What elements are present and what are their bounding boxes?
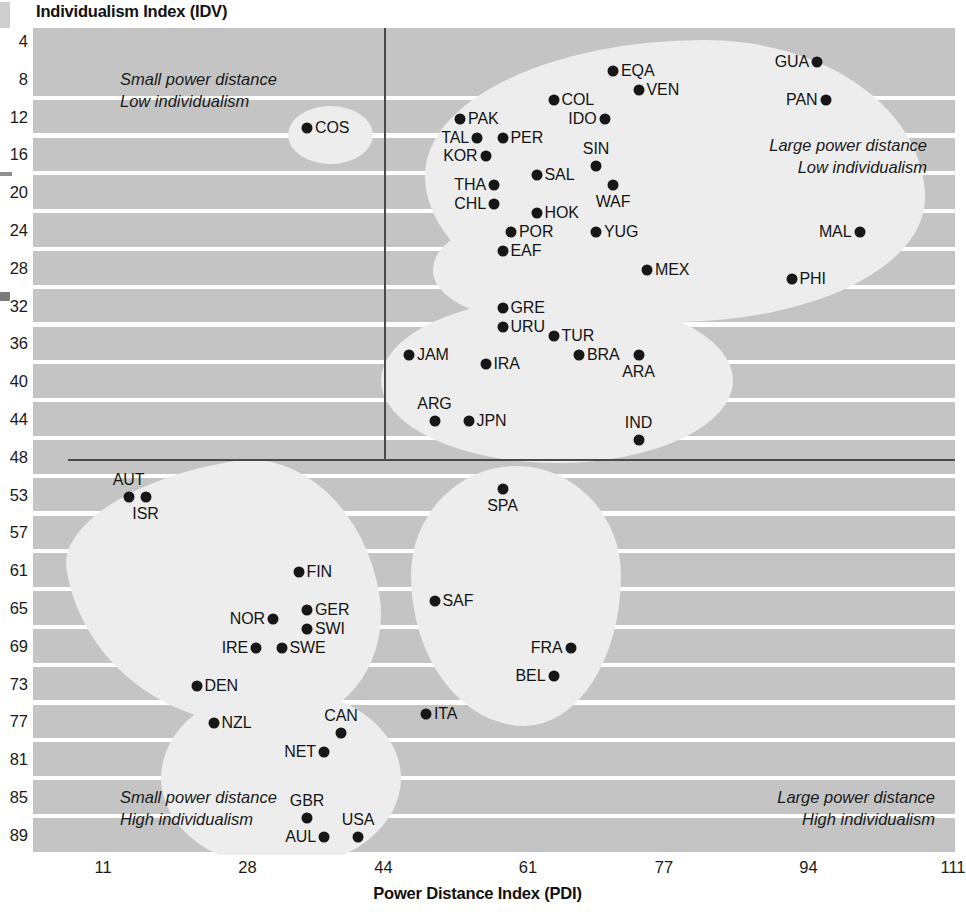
data-point (531, 208, 542, 219)
x-axis-title: Power Distance Index (PDI) (0, 884, 955, 903)
data-point (251, 642, 262, 653)
data-point-label: FIN (307, 563, 332, 581)
data-point (472, 132, 483, 143)
data-point (404, 349, 415, 360)
data-point-label: PAN (786, 91, 817, 109)
data-point-label: FRA (531, 639, 563, 657)
y-axis-tick-label: 28 (0, 259, 28, 278)
y-axis-tick-label: 44 (0, 410, 28, 429)
data-point-label: SAF (443, 592, 474, 610)
data-point-label: TUR (562, 327, 595, 345)
y-axis-tick-label: 65 (0, 599, 28, 618)
data-point (548, 94, 559, 105)
data-point (633, 434, 644, 445)
data-point (455, 113, 466, 124)
y-axis-tick-label: 53 (0, 486, 28, 505)
y-axis-tick-label: 61 (0, 561, 28, 580)
data-point-label: BRA (587, 346, 620, 364)
data-point (463, 416, 474, 427)
data-point (123, 491, 134, 502)
data-point (642, 264, 653, 275)
plot-area: Small power distance Low individualism L… (33, 28, 955, 855)
data-point (820, 94, 831, 105)
x-axis-tick-label: 94 (799, 858, 817, 877)
data-point (633, 85, 644, 96)
annotation-top-left-line1: Small power distance (120, 69, 277, 91)
data-point (506, 227, 517, 238)
data-point-label: IRA (494, 355, 520, 373)
data-point (302, 812, 313, 823)
y-axis-tick-label: 36 (0, 334, 28, 353)
x-axis-tick-label: 11 (94, 858, 111, 877)
annotation-top-left: Small power distance Low individualism (120, 69, 277, 113)
data-point (633, 349, 644, 360)
data-point (208, 718, 219, 729)
data-point (336, 727, 347, 738)
data-point (480, 151, 491, 162)
data-point-label: NZL (222, 714, 252, 732)
data-point-label: CAN (324, 707, 357, 725)
data-point-label: VEN (647, 81, 680, 99)
data-point (276, 642, 287, 653)
data-point (574, 349, 585, 360)
data-point (497, 245, 508, 256)
data-point (497, 321, 508, 332)
x-axis-tick-label: 44 (374, 858, 392, 877)
data-point (548, 330, 559, 341)
annotation-top-right-line1: Large power distance (769, 135, 927, 157)
data-point (489, 179, 500, 190)
y-axis-tick-label: 40 (0, 372, 28, 391)
data-point-label: NET (284, 743, 316, 761)
data-point-label: GER (315, 601, 349, 619)
data-point-label: SAL (545, 166, 575, 184)
data-point (140, 491, 151, 502)
data-point (591, 227, 602, 238)
data-point (548, 671, 559, 682)
data-point-label: MAL (819, 223, 852, 241)
data-point (497, 132, 508, 143)
data-point-label: KOR (443, 147, 477, 165)
data-point (421, 708, 432, 719)
data-point (302, 623, 313, 634)
data-point-label: PAK (468, 110, 499, 128)
data-point (191, 680, 202, 691)
data-point (353, 831, 364, 842)
data-point-label: BEL (516, 667, 546, 685)
y-axis-tick-label: 69 (0, 637, 28, 656)
y-axis-tick-label: 77 (0, 712, 28, 731)
data-point (591, 160, 602, 171)
data-point-label: COS (315, 119, 349, 137)
data-point-label: EQA (621, 62, 655, 80)
quadrant-divider-vertical (384, 28, 386, 461)
data-point (497, 484, 508, 495)
data-point (854, 227, 865, 238)
data-point-label: JPN (477, 412, 507, 430)
data-point (497, 302, 508, 313)
y-axis-tick-label: 73 (0, 675, 28, 694)
x-axis-tick-label: 111 (940, 858, 965, 877)
annotation-bottom-right-line1: Large power distance (777, 787, 935, 809)
annotation-bottom-right-line2: High individualism (777, 809, 935, 831)
data-point-label: URU (511, 318, 545, 336)
data-point-label: PHI (800, 270, 826, 288)
y-axis-tick-label: 85 (0, 788, 28, 807)
data-point-label: EAF (511, 242, 542, 260)
data-point (599, 113, 610, 124)
data-point (319, 746, 330, 757)
x-axis-tick-label: 28 (238, 858, 256, 877)
data-point (302, 123, 313, 134)
data-point-label: GBR (290, 792, 324, 810)
data-point-label: ISR (132, 505, 158, 523)
y-axis-tick-label: 48 (0, 448, 28, 467)
data-point (429, 595, 440, 606)
data-point-label: ITA (434, 705, 457, 723)
data-point-label: DEN (205, 677, 238, 695)
y-axis-tick-label: 24 (0, 221, 28, 240)
y-axis-tick-label: 16 (0, 145, 28, 164)
data-point-label: AUT (113, 471, 145, 489)
y-axis-tick-label: 12 (0, 108, 28, 127)
annotation-bottom-right: Large power distance High individualism (777, 787, 935, 831)
x-axis-tick-label: 61 (519, 858, 537, 877)
quadrant-divider-horizontal (68, 459, 955, 461)
data-point (480, 359, 491, 370)
